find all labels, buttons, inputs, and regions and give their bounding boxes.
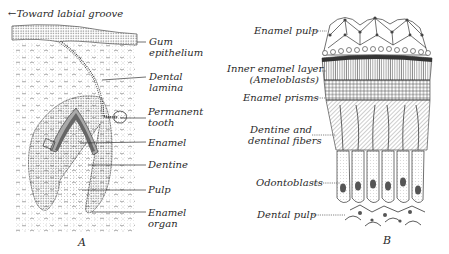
label-line-1: Dental xyxy=(149,71,183,82)
label-gum-epithelium: Gum epithelium xyxy=(149,36,203,58)
label-dentine: Dentine xyxy=(148,159,188,170)
label-inner-enamel-layer: Inner enamel layer (Ameloblasts) xyxy=(227,63,319,85)
label-permanent-tooth: Permanent tooth xyxy=(148,106,203,128)
label-enamel-prisms: Enamel prisms xyxy=(243,92,319,103)
label-dental-pulp: Dental pulp xyxy=(257,209,316,220)
label-line-2: epithelium xyxy=(149,47,203,58)
figure-letter-a: A xyxy=(78,236,86,249)
label-enamel-pulp: Enamel pulp xyxy=(254,25,318,36)
label-enamel: Enamel xyxy=(148,137,186,148)
figure-a-drawing xyxy=(12,25,146,232)
label-line-2: organ xyxy=(148,218,186,229)
label-line-2: dentinal fibers xyxy=(248,135,312,146)
label-odontoblasts: Odontoblasts xyxy=(256,177,323,188)
label-line-1: Permanent xyxy=(148,106,203,117)
label-line-2: (Ameloblasts) xyxy=(227,74,319,85)
figure-letter-b: B xyxy=(383,234,391,247)
label-pulp: Pulp xyxy=(148,184,171,195)
label-line-2: tooth xyxy=(148,117,203,128)
label-dental-lamina: Dental lamina xyxy=(149,71,183,93)
label-dentine-fibers: Dentine and dentinal fibers xyxy=(248,124,312,146)
label-line-2: lamina xyxy=(149,82,183,93)
direction-label: ←Toward labial groove xyxy=(8,8,123,19)
figure-b-drawing xyxy=(311,16,432,226)
label-line-1: Dentine and xyxy=(248,124,312,135)
label-line-1: Inner enamel layer xyxy=(227,63,319,74)
label-line-1: Enamel xyxy=(148,207,186,218)
label-enamel-organ: Enamel organ xyxy=(148,207,186,229)
label-line-1: Gum xyxy=(149,36,203,47)
diagram-artwork xyxy=(0,0,449,254)
